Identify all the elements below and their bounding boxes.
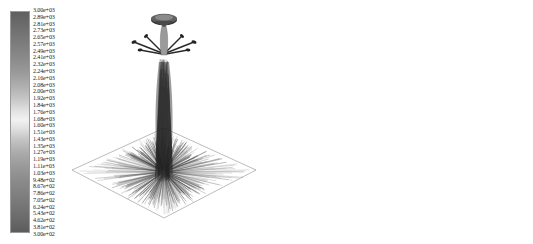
plot-area-left — [62, 0, 266, 244]
figure-root: 3.00e+03 2.89e+03 2.81e+03 2.73e+03 2.65… — [0, 0, 533, 244]
colorbar-gradient-left — [10, 11, 30, 233]
panel-right: 6.50e+02 6.36e+02 6.25e+02 6.15e+02 6.04… — [267, 0, 533, 244]
umbrella-cap-left — [151, 14, 177, 27]
colorbar-left: 3.00e+03 2.89e+03 2.81e+03 2.73e+03 2.65… — [8, 0, 66, 244]
upper-stem-left — [160, 26, 167, 55]
panel-left: 3.00e+03 2.89e+03 2.81e+03 2.73e+03 2.65… — [0, 0, 266, 244]
